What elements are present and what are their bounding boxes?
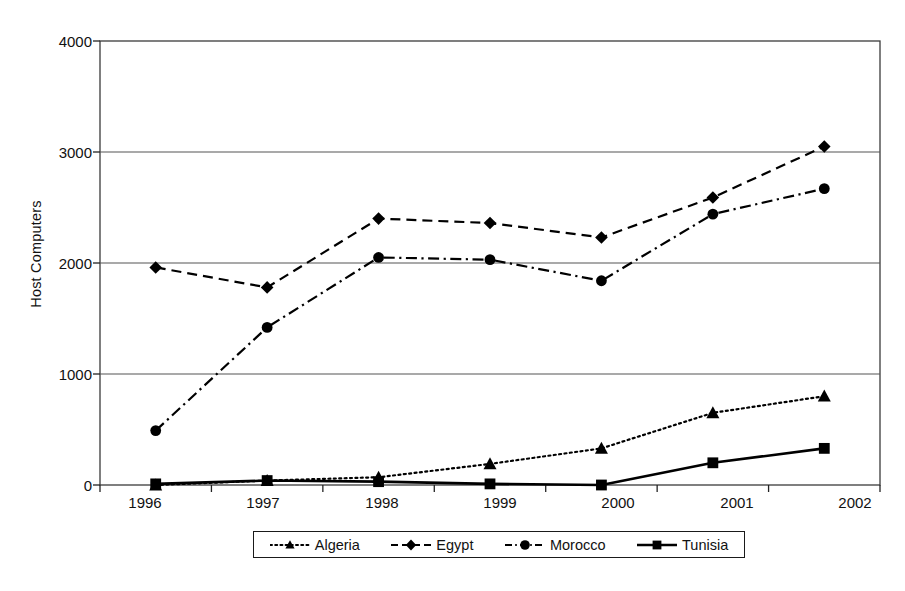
data-point (818, 390, 831, 402)
data-point (707, 191, 720, 204)
legend-swatch-tunisia-icon (637, 538, 677, 552)
legend-swatch-egypt-icon (391, 538, 431, 552)
legend-item-tunisia: Tunisia (637, 537, 728, 553)
series-egypt (149, 140, 830, 294)
legend-swatch-algeria-icon (270, 538, 310, 552)
data-point (596, 480, 607, 491)
legend-label: Egypt (436, 537, 473, 553)
x-tick-label: 1997 (246, 494, 279, 511)
data-point (595, 442, 608, 454)
x-tick-label: 2001 (720, 494, 753, 511)
data-point (819, 443, 830, 454)
legend-label: Tunisia (682, 537, 728, 553)
data-point (596, 275, 607, 286)
x-tick-label: 2000 (601, 494, 634, 511)
series-algeria (149, 390, 831, 491)
data-point (484, 217, 497, 230)
data-point (707, 457, 718, 468)
legend-item-egypt: Egypt (391, 537, 473, 553)
series-line (156, 396, 825, 485)
data-point (373, 476, 384, 487)
data-point (262, 475, 273, 486)
data-point (373, 252, 384, 263)
data-point (150, 478, 161, 489)
legend-label: Morocco (550, 537, 606, 553)
chart-container: Host Computers 4000 3000 2000 1000 0 199… (0, 0, 905, 591)
data-point (707, 209, 718, 220)
data-point (150, 425, 161, 436)
legend-item-morocco: Morocco (505, 537, 606, 553)
legend-label: Algeria (315, 537, 360, 553)
data-point (262, 322, 273, 333)
x-tick-label: 1998 (365, 494, 398, 511)
x-tick-label: 2002 (838, 494, 871, 511)
data-point (261, 281, 274, 294)
data-point (485, 254, 496, 265)
chart-legend: Algeria Egypt Morocco Tunisia (253, 531, 745, 558)
data-point (595, 231, 608, 244)
data-point (818, 140, 831, 153)
legend-swatch-morocco-icon (505, 538, 545, 552)
legend-item-algeria: Algeria (270, 537, 360, 553)
data-point (372, 212, 385, 225)
data-point (485, 478, 496, 489)
data-point (819, 183, 830, 194)
x-tick-label: 1996 (128, 494, 161, 511)
x-tick-label: 1999 (483, 494, 516, 511)
